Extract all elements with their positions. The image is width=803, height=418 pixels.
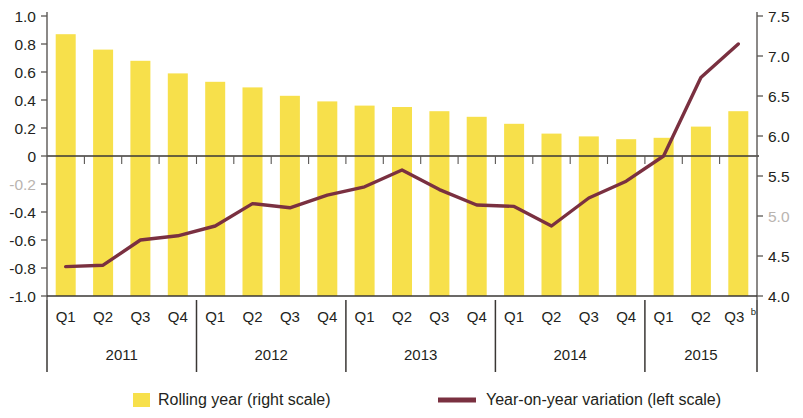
legend-label-rolling-year: Rolling year (right scale) — [158, 391, 331, 408]
right-axis-tick-label-6.0: 6.0 — [768, 128, 790, 145]
right-axis-tick-label-7.0: 7.0 — [768, 48, 790, 65]
bar-2015-Q2 — [691, 127, 711, 296]
x-tick-label-Q4-3: Q4 — [168, 308, 188, 325]
left-axis-tick-label-0.8: 0.8 — [14, 36, 36, 53]
left-axis-tick-label--0.2: -0.2 — [9, 176, 36, 193]
right-axis-tick-label-5.5: 5.5 — [768, 168, 790, 185]
left-axis-tick-label-0.2: 0.2 — [14, 120, 36, 137]
x-tick-label-Q3-14: Q3 — [579, 308, 599, 325]
chart-legend: Rolling year (right scale)Year-on-year v… — [133, 391, 721, 408]
bar-2011-Q4 — [168, 73, 188, 296]
x-tick-label-Q1-0: Q1 — [56, 308, 76, 325]
right-axis-tick-label-4.5: 4.5 — [768, 248, 790, 265]
year-group-label-2014: 2014 — [553, 346, 586, 363]
combo-chart: 1.00.80.60.40.20-0.2-0.4-0.6-0.8-1.07.57… — [0, 0, 803, 418]
left-axis-tick-label--0.8: -0.8 — [9, 260, 36, 277]
x-tick-label-Q2-13: Q2 — [541, 308, 561, 325]
bar-2015-Q3 — [728, 111, 748, 296]
x-tick-label-Q2-5: Q2 — [243, 308, 263, 325]
x-tick-label-Q4-7: Q4 — [317, 308, 337, 325]
year-group-label-2011: 2011 — [106, 346, 138, 363]
legend-swatch-rolling-year — [133, 393, 150, 407]
x-tick-label-Q2-17: Q2 — [691, 308, 711, 325]
bar-2014-Q4 — [616, 139, 636, 296]
bar-2012-Q2 — [243, 87, 263, 296]
left-axis-tick-label--0.4: -0.4 — [9, 204, 36, 221]
bar-series — [56, 34, 749, 296]
year-group-label-2012: 2012 — [255, 346, 288, 363]
x-tick-label-Q1-8: Q1 — [355, 308, 375, 325]
left-axis-tick-label-0: 0 — [27, 148, 36, 165]
bar-2013-Q2 — [392, 107, 412, 296]
x-tick-footnote-marker: b — [751, 306, 756, 317]
right-axis: 7.57.06.56.05.55.04.54.0 — [757, 8, 790, 305]
bar-2012-Q1 — [205, 82, 225, 296]
left-axis-tick-label-1.0: 1.0 — [14, 8, 36, 25]
x-tick-label-Q3-18: Q3 — [724, 308, 744, 325]
left-axis-tick-label-0.4: 0.4 — [14, 92, 36, 109]
x-tick-label-Q2-1: Q2 — [93, 308, 113, 325]
bar-2014-Q2 — [542, 134, 562, 296]
x-tick-label-Q1-4: Q1 — [205, 308, 225, 325]
left-axis-tick-label--1.0: -1.0 — [9, 288, 36, 305]
year-group-label-2015: 2015 — [684, 346, 717, 363]
x-tick-label-Q3-2: Q3 — [130, 308, 150, 325]
bar-2014-Q3 — [579, 136, 599, 296]
x-tick-label-Q4-11: Q4 — [467, 308, 487, 325]
right-axis-tick-label-6.5: 6.5 — [768, 88, 790, 105]
chart-container: 1.00.80.60.40.20-0.2-0.4-0.6-0.8-1.07.57… — [0, 0, 803, 418]
right-axis-tick-label-4.0: 4.0 — [768, 288, 790, 305]
legend-label-year-on-year-variation: Year-on-year variation (left scale) — [486, 391, 721, 408]
right-axis-tick-label-7.5: 7.5 — [768, 8, 790, 25]
bar-2013-Q1 — [355, 106, 375, 296]
bar-2011-Q3 — [130, 61, 150, 296]
x-tick-label-Q4-15: Q4 — [616, 308, 636, 325]
x-tick-label-Q3-10: Q3 — [429, 308, 449, 325]
x-tick-label-Q1-12: Q1 — [504, 308, 524, 325]
x-tick-label-Q2-9: Q2 — [392, 308, 412, 325]
left-axis-tick-label--0.6: -0.6 — [9, 232, 36, 249]
bar-2011-Q1 — [56, 34, 76, 296]
x-axis-labels: Q1Q2Q3Q4Q1Q2Q3Q4Q1Q2Q3Q4Q1Q2Q3Q4Q1Q2Q3b2… — [47, 300, 757, 372]
year-group-label-2013: 2013 — [404, 346, 437, 363]
left-axis: 1.00.80.60.40.20-0.2-0.4-0.6-0.8-1.0 — [9, 8, 47, 305]
left-axis-tick-label-0.6: 0.6 — [14, 64, 36, 81]
bar-2013-Q3 — [429, 111, 449, 296]
x-tick-label-Q3-6: Q3 — [280, 308, 300, 325]
bar-2012-Q3 — [280, 96, 300, 296]
x-tick-label-Q1-16: Q1 — [654, 308, 674, 325]
right-axis-tick-label-5.0: 5.0 — [768, 208, 790, 225]
